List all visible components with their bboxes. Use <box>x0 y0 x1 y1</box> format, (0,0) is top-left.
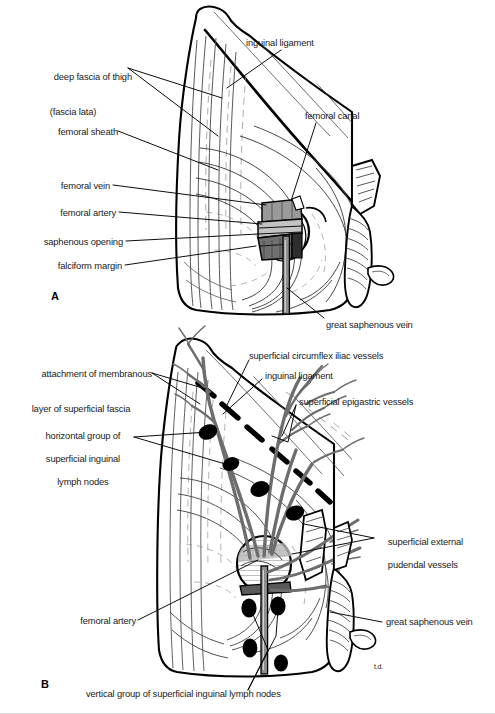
label-deep-fascia-line2: (fascia lata) <box>14 106 132 117</box>
great-saphenous-vein-a <box>283 236 289 314</box>
artist-signature: t.d. <box>374 661 383 672</box>
panel-a-illustration <box>176 6 416 315</box>
label-attachment-line2: layer of superficial fascia <box>10 403 152 414</box>
label-falciform-margin: falciform margin <box>14 260 122 271</box>
label-horizontal-group-line3: lymph nodes <box>57 476 109 487</box>
label-horizontal-group-line2: superficial inguinal <box>46 453 120 464</box>
label-superficial-epigastric-vessels: superficial epigastric vessels <box>299 396 413 407</box>
label-pudendal-line2: pudendal vessels <box>388 559 458 570</box>
label-femoral-sheath: femoral sheath <box>14 126 118 137</box>
label-inguinal-ligament-a: inguinal ligament <box>246 37 314 48</box>
label-femoral-artery: femoral artery <box>14 207 116 218</box>
panel-letter-b: B <box>41 678 49 690</box>
label-deep-fascia-line1: deep fascia of thigh <box>54 71 132 82</box>
label-vertical-group-lymph-nodes: vertical group of superficial inguinal l… <box>86 688 281 699</box>
label-attachment-line1: attachment of membranous <box>41 368 152 379</box>
panel-a-lateral-structure <box>345 160 394 307</box>
label-great-saphenous-vein-a: great saphenous vein <box>326 319 413 330</box>
panel-letter-a: A <box>51 290 59 302</box>
panel-b-lateral-structure <box>327 522 376 671</box>
label-femoral-artery-b: femoral artery <box>32 615 136 626</box>
figure-page: deep fascia of thigh (fascia lata) femor… <box>0 0 495 714</box>
label-great-saphenous-vein-b: great saphenous vein <box>386 616 473 627</box>
label-horizontal-group-line1: horizontal group of <box>46 430 121 441</box>
label-femoral-vein: femoral vein <box>14 180 110 191</box>
label-femoral-canal: femoral canal <box>305 110 359 121</box>
label-superficial-circumflex-iliac-vessels: superficial circumflex iliac vessels <box>249 350 383 361</box>
label-superficial-external-pudendal-vessels: superficial external pudendal vessels <box>378 525 463 582</box>
label-saphenous-opening: saphenous opening <box>6 236 123 247</box>
label-horizontal-group-lymph-nodes: horizontal group of superficial inguinal… <box>22 419 134 499</box>
label-inguinal-ligament-b: inguinal ligament <box>265 370 333 381</box>
label-pudendal-line1: superficial external <box>388 536 463 547</box>
